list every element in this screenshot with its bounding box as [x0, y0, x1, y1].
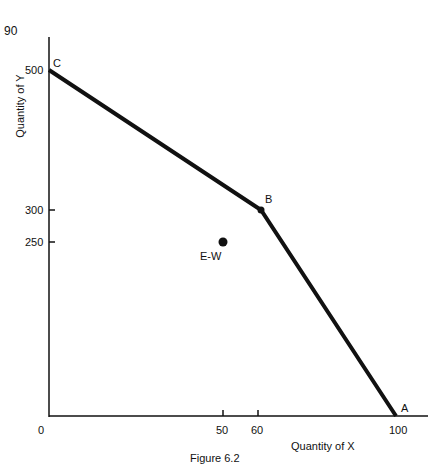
point-a-label: A: [401, 402, 408, 414]
point-c-label: C: [53, 57, 61, 69]
point-ew-marker: [219, 238, 228, 247]
x-tick-100: 100: [389, 424, 407, 436]
point-b-label: B: [265, 193, 272, 205]
x-tick-0: 0: [38, 424, 44, 436]
x-axis-label: Quantity of X: [291, 440, 355, 452]
point-ew-label: E-W: [200, 250, 221, 262]
y-tick-250: 250: [25, 236, 43, 248]
y-tick-500: 500: [25, 64, 43, 76]
y-axis-label: Quantity of Y: [14, 56, 26, 156]
x-tick-50: 50: [216, 424, 228, 436]
y-tick-300: 300: [25, 204, 43, 216]
figure-caption: Figure 6.2: [190, 452, 240, 464]
point-b-marker: [258, 207, 265, 214]
x-tick-60: 60: [251, 424, 263, 436]
